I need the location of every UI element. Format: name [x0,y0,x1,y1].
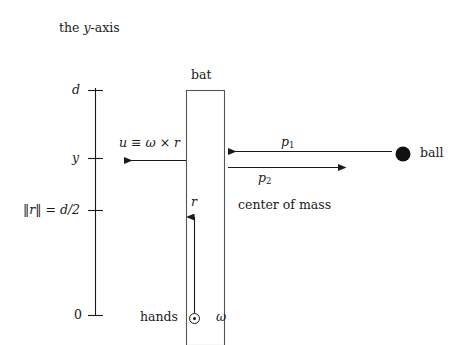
axis-tick-label-zero: 0 [74,309,82,322]
axis-tick-label-half-d: ‖r‖ = d/2 [23,204,80,217]
vector-p2-label: p2 [258,172,271,186]
bat-body [187,91,225,345]
out-of-page-vector-dot-icon [193,317,196,320]
center-of-mass-label: center of mass [238,199,331,212]
y-axis-caption-symbol: y [83,20,90,35]
y-axis-caption-suffix: -axis [91,20,120,35]
y-axis-caption-prefix: the [59,20,83,35]
vector-p1-symbol: p [281,134,289,149]
ball-label: ball [420,147,443,160]
vector-p1-subscript: 1 [289,140,294,150]
diagram-vector-layer [0,0,461,345]
y-axis-caption: the y-axis [59,22,120,35]
vector-p2-symbol: p [258,170,266,185]
figure-canvas: the y-axis d y ‖r‖ = d/2 0 bat u ≡ ω × r… [0,0,461,345]
axis-tick-label-d: d [72,84,80,97]
axis-tick-label-y: y [72,152,79,165]
vector-omega-label: ω [216,311,226,324]
vector-p1-label: p1 [281,136,294,150]
vector-r-label: r [191,196,197,209]
vector-u-label: u ≡ ω × r [119,137,180,150]
hands-label: hands [140,311,178,324]
vector-p2-subscript: 2 [266,176,271,186]
ball-marker [396,147,411,162]
bat-label: bat [191,69,211,82]
